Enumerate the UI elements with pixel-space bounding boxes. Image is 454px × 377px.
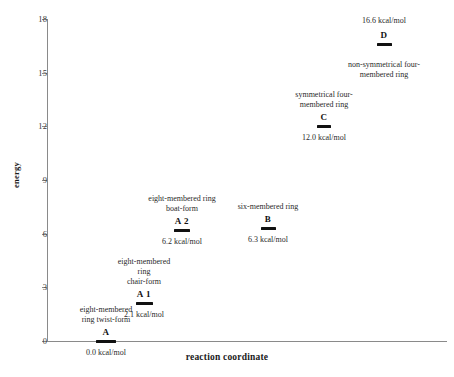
y-axis-line [47,19,48,341]
point-letter-label: A [66,327,146,337]
point-description-line: membered ring [264,100,384,110]
point-description-line: symmetrical four- [264,90,384,100]
point-description: eight-memberedringchair-form [84,257,204,287]
point-value-label: 2.1 kcal/mol [94,310,194,319]
point-description-line: eight-membered [84,257,204,267]
energy-level-marker [96,340,116,343]
y-tick-label: 15 [13,69,47,78]
point-description-line: ring [84,267,204,277]
point-description: symmetrical four-membered ring [264,90,384,110]
y-tick-label: 12 [13,122,47,131]
energy-level-marker [174,229,190,232]
point-description: six-membered ring [208,202,328,212]
point-letter-label: B [228,214,308,224]
point-letter-label: A 2 [142,216,222,226]
y-tick-label: 3 [13,283,47,292]
point-description-line: chair-form [84,277,204,287]
point-value-label: 6.3 kcal/mol [218,235,318,244]
energy-level-marker [377,43,392,46]
point-description: non-symmetrical four-membered ring [324,60,444,80]
y-tick-label: 6 [13,230,47,239]
energy-level-marker [261,227,276,230]
point-description-line: membered ring [324,70,444,80]
energy-level-marker [136,302,153,305]
point-value-label: 6.2 kcal/mol [132,237,232,246]
point-description-line: non-symmetrical four- [324,60,444,70]
y-tick-label: 0 [13,337,47,346]
point-letter-label: C [284,112,364,122]
point-value-label: 0.0 kcal/mol [56,348,156,357]
point-value-label: 16.6 kcal/mol [334,16,434,25]
y-tick-label: 18 [13,15,47,24]
y-axis-title: energy [11,145,21,205]
energy-level-marker [317,125,331,128]
point-letter-label: D [344,30,424,40]
point-letter-label: A 1 [104,289,184,299]
point-description-line: six-membered ring [208,202,328,212]
point-value-label: 12.0 kcal/mol [274,133,374,142]
energy-profile-chart: 0369121518 energy reaction coordinate A0… [0,0,454,377]
